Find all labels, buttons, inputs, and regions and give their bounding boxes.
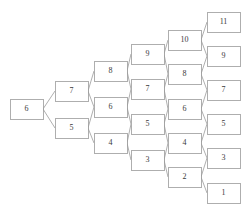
node-n2-1[interactable]: 6 (94, 97, 127, 117)
node-label: 10 (181, 35, 189, 44)
edge-n3-3-to-n4-3 (164, 143, 168, 160)
node-n5-0[interactable]: 11 (207, 12, 240, 32)
node-label: 5 (146, 119, 150, 128)
node-label: 6 (25, 104, 29, 113)
edge-n3-1-to-n4-1 (164, 74, 168, 89)
edge-n4-4-to-n5-5 (201, 177, 207, 193)
node-n3-0[interactable]: 9 (131, 44, 164, 64)
node-label: 11 (220, 17, 228, 26)
node-label: 4 (109, 138, 113, 147)
node-label: 6 (109, 102, 113, 111)
edge-n3-0-to-n4-0 (164, 40, 168, 54)
edge-n2-2-to-n3-3 (127, 143, 131, 160)
edge-n3-0-to-n4-1 (164, 54, 168, 74)
edge-n3-2-to-n4-3 (164, 124, 168, 143)
node-label: 7 (70, 86, 74, 95)
edge-n2-1-to-n3-2 (127, 107, 131, 124)
lattice-diagram: 67586497531086421197531 (0, 0, 248, 218)
node-n3-2[interactable]: 5 (131, 114, 164, 134)
node-label: 7 (146, 84, 150, 93)
lattice-canvas: 67586497531086421197531 (0, 0, 248, 218)
edge-n3-3-to-n4-4 (164, 160, 168, 177)
node-label: 8 (109, 66, 113, 75)
edge-n1-0-to-n2-0 (88, 71, 94, 91)
node-n0-0[interactable]: 6 (10, 99, 43, 119)
edge-n4-4-to-n5-4 (201, 158, 207, 177)
edge-n4-0-to-n5-0 (201, 22, 207, 40)
node-label: 8 (183, 69, 187, 78)
node-n4-2[interactable]: 6 (168, 99, 201, 119)
edge-n4-2-to-n5-2 (201, 90, 207, 109)
edge-n4-2-to-n5-3 (201, 109, 207, 124)
edge-n4-1-to-n5-1 (201, 56, 207, 74)
node-label: 5 (222, 119, 226, 128)
node-label: 6 (183, 104, 187, 113)
node-n4-1[interactable]: 8 (168, 64, 201, 84)
node-n5-3[interactable]: 5 (207, 114, 240, 134)
node-label: 4 (183, 138, 187, 147)
node-n3-1[interactable]: 7 (131, 79, 164, 99)
node-label: 5 (70, 123, 74, 132)
edge-n0-0-to-n1-1 (43, 109, 55, 128)
edge-n3-1-to-n4-2 (164, 89, 168, 109)
edge-n4-3-to-n5-4 (201, 143, 207, 158)
edge-n2-0-to-n3-0 (127, 54, 131, 71)
edge-n2-2-to-n3-2 (127, 124, 131, 143)
node-n4-3[interactable]: 4 (168, 133, 201, 153)
edge-n2-0-to-n3-1 (127, 71, 131, 89)
edge-n4-1-to-n5-2 (201, 74, 207, 90)
edge-n2-1-to-n3-1 (127, 89, 131, 107)
node-n5-1[interactable]: 9 (207, 46, 240, 66)
node-label: 9 (222, 51, 226, 60)
node-n1-1[interactable]: 5 (55, 118, 88, 138)
node-label: 7 (222, 85, 226, 94)
edge-n1-1-to-n2-2 (88, 128, 94, 143)
node-label: 9 (146, 49, 150, 58)
edge-n3-2-to-n4-2 (164, 109, 168, 124)
node-n1-0[interactable]: 7 (55, 81, 88, 101)
node-n5-4[interactable]: 3 (207, 148, 240, 168)
edge-n0-0-to-n1-0 (43, 91, 55, 109)
node-n3-3[interactable]: 3 (131, 150, 164, 170)
edge-n4-0-to-n5-1 (201, 40, 207, 56)
node-n2-0[interactable]: 8 (94, 61, 127, 81)
node-n4-0[interactable]: 10 (168, 30, 201, 50)
node-n5-2[interactable]: 7 (207, 80, 240, 100)
edge-n1-1-to-n2-1 (88, 107, 94, 128)
node-n4-4[interactable]: 2 (168, 167, 201, 187)
nodes-layer: 67586497531086421197531 (10, 12, 240, 203)
node-label: 2 (183, 172, 187, 181)
node-label: 3 (146, 155, 150, 164)
edge-n4-3-to-n5-3 (201, 124, 207, 143)
node-label: 3 (222, 153, 226, 162)
node-label: 1 (222, 188, 226, 197)
edge-n1-0-to-n2-1 (88, 91, 94, 107)
node-n2-2[interactable]: 4 (94, 133, 127, 153)
node-n5-5[interactable]: 1 (207, 183, 240, 203)
